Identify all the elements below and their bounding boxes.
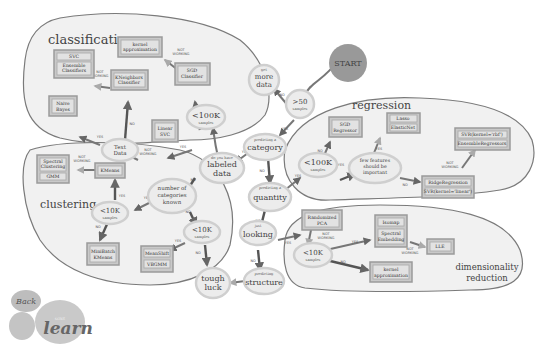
- edge-label: YES: [285, 241, 291, 245]
- edge-label: NO: [402, 183, 408, 187]
- edge-label: YES: [180, 145, 186, 149]
- edge-label: WORKING: [173, 52, 190, 56]
- gt50-samples-node[interactable]: >50 samples: [286, 90, 314, 118]
- svg-text:SGD: SGD: [187, 68, 198, 73]
- svg-text:<10K: <10K: [192, 226, 213, 234]
- svg-text:ElasticNet: ElasticNet: [391, 125, 416, 130]
- regression-title: regression: [352, 99, 411, 112]
- clu-lt10k-node[interactable]: <10K samples: [92, 202, 128, 224]
- dimensionality-title-line2: reduction: [466, 273, 508, 283]
- clu-lt10k-b-node[interactable]: <10K samples: [184, 221, 220, 243]
- svg-text:tough: tough: [201, 274, 224, 283]
- kneighbors-box[interactable]: KNeighbors Classifier: [111, 70, 148, 90]
- svg-text:SGD: SGD: [340, 122, 351, 127]
- kernel-approx-dim-box[interactable]: kernel approximation: [370, 262, 412, 282]
- svg-text:should be: should be: [363, 164, 387, 169]
- edge-label: NO: [190, 178, 196, 182]
- edge-label: YES: [282, 127, 288, 131]
- svg-text:MiniBatch: MiniBatch: [91, 249, 115, 254]
- labeled-data-node[interactable]: do you have labeled data: [200, 153, 244, 183]
- svg-text:important: important: [363, 170, 387, 175]
- sgd-regressor-box[interactable]: SGD Regressor: [329, 117, 362, 137]
- svg-text:quantity: quantity: [253, 193, 287, 202]
- svg-text:kernel: kernel: [384, 267, 399, 272]
- edge-label: YES: [97, 135, 103, 139]
- edge-label: YES: [338, 163, 344, 167]
- edge-label: YES: [352, 240, 358, 244]
- kernel-approx-cls-box[interactable]: kernel approximation: [118, 37, 162, 57]
- svg-text:just: just: [254, 224, 262, 228]
- num-categories-node[interactable]: number of categories known: [148, 179, 196, 213]
- svg-text:known: known: [163, 199, 182, 205]
- svg-text:samples: samples: [306, 258, 321, 262]
- edge-label: NO: [195, 251, 201, 255]
- svg-text:KMeans: KMeans: [101, 168, 121, 173]
- tough-luck-node[interactable]: tough luck: [196, 268, 230, 298]
- svg-text:VBGMM: VBGMM: [146, 262, 167, 267]
- spectral-gmm-box[interactable]: Spectral Clustering GMM: [37, 155, 69, 183]
- linear-svc-box[interactable]: Linear SVC: [152, 120, 178, 142]
- svg-text:looking: looking: [243, 230, 273, 239]
- svc-ensemble-box[interactable]: SVC Ensemble Classifiers: [54, 50, 94, 78]
- svg-text:<100K: <100K: [304, 158, 333, 167]
- isomap-spectral-box[interactable]: Isomap Spectral Embedding: [375, 215, 407, 247]
- few-features-node[interactable]: few features should be important: [349, 153, 401, 183]
- svg-text:Linear: Linear: [157, 126, 173, 131]
- svg-text:predicting a: predicting a: [254, 138, 277, 142]
- svg-text:Classifier: Classifier: [118, 80, 141, 85]
- svg-text:Back: Back: [15, 297, 36, 306]
- dim-lt10k-node[interactable]: <10K samples: [294, 243, 332, 267]
- edge-label: NO: [259, 169, 265, 173]
- svg-text:Data: Data: [113, 150, 127, 156]
- svg-text:get: get: [261, 68, 267, 72]
- randomized-pca-box[interactable]: Randomized PCA: [302, 210, 342, 230]
- back-button[interactable]: Back: [11, 290, 41, 312]
- minibatch-kmeans-box[interactable]: MiniBatch KMeans: [87, 243, 119, 265]
- predicting-category-node[interactable]: predicting a category: [244, 134, 286, 160]
- svg-text:structure: structure: [245, 278, 283, 287]
- svg-text:SVC: SVC: [69, 54, 79, 59]
- svg-text:Spectral: Spectral: [381, 231, 401, 236]
- edge-quantity: [268, 158, 270, 183]
- edge-label: WORKING: [402, 251, 419, 255]
- svg-text:Isomap: Isomap: [383, 220, 400, 225]
- edge-label: NO: [340, 260, 346, 264]
- edge-label: NO: [95, 225, 101, 229]
- edge-label: YES: [119, 194, 125, 198]
- svg-text:<100K: <100K: [192, 111, 221, 120]
- sgd-classifier-box[interactable]: SGD Classifier: [175, 63, 210, 85]
- dimensionality-title-line1: dimensionality: [455, 262, 518, 272]
- edge-label: YES: [376, 147, 382, 151]
- svg-text:Naive: Naive: [56, 101, 70, 106]
- svg-text:MeanShift: MeanShift: [145, 251, 169, 256]
- just-looking-node[interactable]: just looking: [240, 221, 276, 245]
- svg-text:samples: samples: [311, 168, 326, 172]
- svg-text:samples: samples: [195, 235, 210, 239]
- svg-text:SVR(kernel='rbf'): SVR(kernel='rbf'): [461, 132, 503, 137]
- meanshift-vbgmm-box[interactable]: MeanShift VBGMM: [141, 246, 173, 272]
- kmeans-box[interactable]: KMeans: [95, 163, 125, 178]
- lasso-elasticnet-box[interactable]: Lasso ElasticNet: [387, 113, 420, 133]
- svr-rbf-ensemble-box[interactable]: SVR(kernel='rbf') EnsembleRegressors: [455, 128, 510, 150]
- svg-text:predicting: predicting: [255, 272, 275, 276]
- more-data-node[interactable]: get more data: [249, 65, 279, 95]
- svg-text:approximation: approximation: [374, 273, 408, 278]
- edge-tough-luck: [230, 281, 245, 283]
- predicting-quantity-node[interactable]: predicting a quantity: [249, 183, 291, 211]
- svg-text:Lasso: Lasso: [396, 116, 410, 121]
- svg-text:categories: categories: [157, 192, 186, 199]
- svg-text:number of: number of: [158, 185, 188, 191]
- svg-text:Classifier: Classifier: [181, 74, 204, 79]
- svg-text:Classifiers: Classifiers: [62, 68, 87, 73]
- reg-lt100k-node[interactable]: <100K samples: [299, 153, 337, 177]
- text-data-node[interactable]: Text Data: [102, 139, 138, 161]
- edge-label: NO: [250, 259, 256, 263]
- svg-text:approximation: approximation: [123, 47, 157, 52]
- ridge-svr-linear-box[interactable]: RidgeRegression SVR(kernel='linear'): [422, 176, 474, 198]
- naive-bayes-box[interactable]: Naive Bayes: [49, 96, 77, 116]
- lle-box[interactable]: LLE: [427, 239, 454, 254]
- logo-learn-text: learn: [43, 318, 93, 338]
- cls-lt100k-node[interactable]: <100K samples: [187, 105, 225, 129]
- predicting-structure-node[interactable]: predicting structure: [244, 268, 284, 294]
- svg-text:SVC: SVC: [160, 132, 170, 137]
